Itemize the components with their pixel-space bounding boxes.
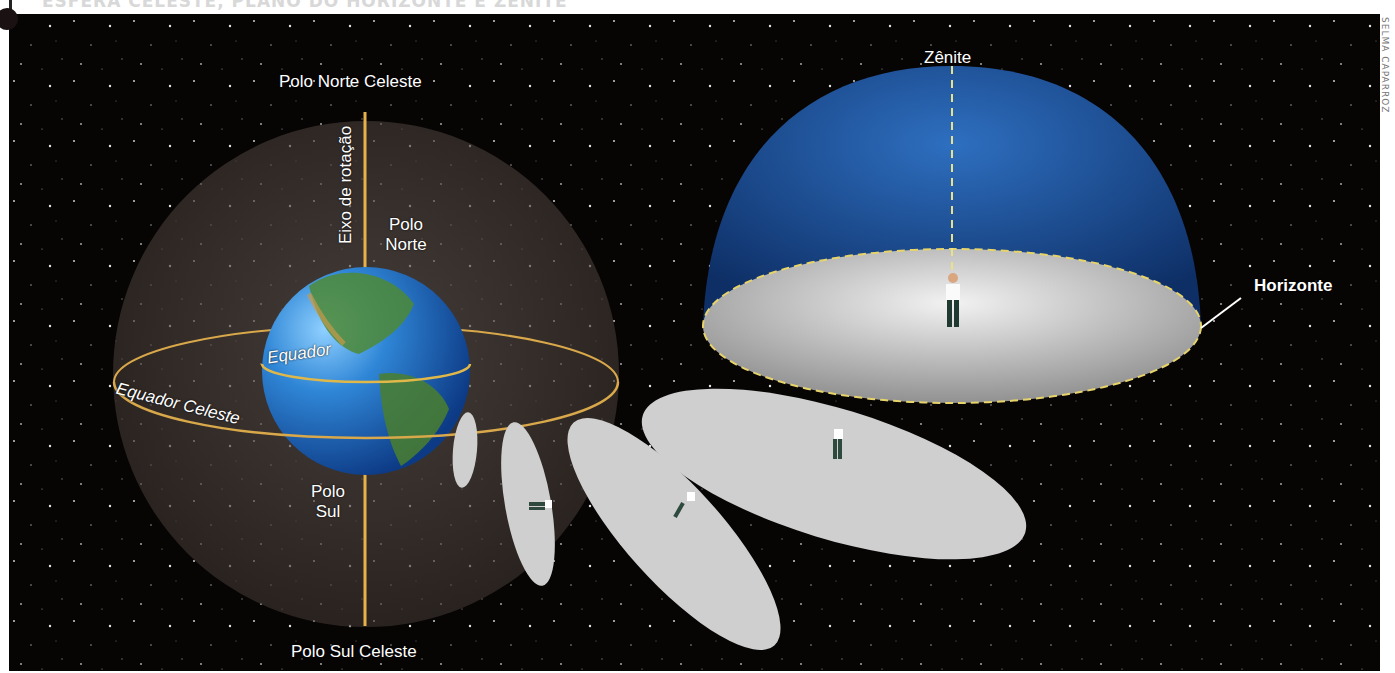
label-north-pole: Polo Norte (381, 215, 431, 256)
image-credit: SELMA CAPARROZ (1377, 14, 1395, 154)
label-south-pole-line2: Sul (305, 502, 351, 522)
label-north-pole-line1: Polo (381, 215, 431, 235)
figure-header: ESFERA CELESTE, PLANO DO HORIZONTE E ZÊN… (0, 0, 1395, 14)
label-south-celestial-pole: Polo Sul Celeste (291, 642, 417, 662)
label-south-pole: Polo Sul (305, 482, 351, 523)
illustration-svg (9, 14, 1380, 671)
figure-title: ESFERA CELESTE, PLANO DO HORIZONTE E ZÊN… (42, 0, 568, 11)
label-rotation-axis: Eixo de rotação (336, 126, 356, 244)
header-bullet-icon (0, 0, 22, 38)
illustration-panel: Polo Norte Celeste Eixo de rotação Polo … (9, 14, 1380, 671)
label-south-pole-line1: Polo (305, 482, 351, 502)
credit-text: SELMA CAPARROZ (1380, 17, 1390, 137)
label-north-celestial-pole: Polo Norte Celeste (279, 72, 422, 92)
label-zenith: Zênite (924, 48, 971, 68)
label-horizon: Horizonte (1254, 276, 1332, 296)
label-north-pole-line2: Norte (381, 235, 431, 255)
